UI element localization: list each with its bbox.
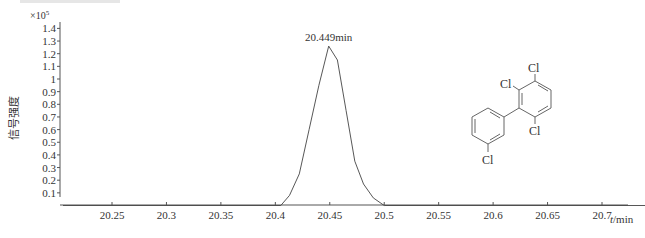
x-tick-label: 20.3 bbox=[157, 209, 177, 221]
atom-cl-3: Cl bbox=[529, 124, 541, 138]
y-tick-label: 0.3 bbox=[42, 162, 56, 174]
atom-cl-4: Cl bbox=[482, 153, 494, 167]
x-tick-label: 20.45 bbox=[317, 209, 342, 221]
upper-ring bbox=[519, 81, 551, 117]
x-tick-label: 20.5 bbox=[375, 209, 395, 221]
atom-cl-1: Cl bbox=[528, 61, 540, 75]
y-multiplier: ×105 bbox=[30, 9, 50, 21]
y-tick-label: 1.1 bbox=[42, 60, 56, 72]
x-tick-label: 20.65 bbox=[535, 209, 560, 221]
atom-cl-2: Cl bbox=[500, 77, 512, 91]
y-tick-label: 0.8 bbox=[42, 98, 56, 110]
peak-annotation: 20.449min bbox=[305, 31, 353, 43]
y-tick-label: 0.2 bbox=[42, 174, 56, 186]
y-ticks: 0.10.20.30.40.50.60.70.80.911.11.21.31.4 bbox=[42, 22, 60, 198]
y-tick-label: 1.2 bbox=[42, 48, 56, 60]
y-tick-label: 0.9 bbox=[42, 86, 56, 98]
y-tick-label: 1.4 bbox=[42, 22, 56, 34]
y-tick-label: 0.4 bbox=[42, 149, 56, 161]
y-tick-label: 0.1 bbox=[42, 187, 56, 199]
y-tick-label: 1.3 bbox=[42, 35, 56, 47]
chromatogram-trace bbox=[63, 46, 645, 205]
x-tick-label: 20.55 bbox=[426, 209, 451, 221]
molecule-structure: Cl Cl Cl Cl bbox=[472, 61, 551, 167]
y-tick-label: 0.7 bbox=[42, 111, 56, 123]
x-tick-label: 20.4 bbox=[266, 209, 286, 221]
y-tick-label: 1 bbox=[51, 73, 57, 85]
x-tick-label: 20.25 bbox=[100, 209, 125, 221]
x-tick-label: 20.35 bbox=[209, 209, 234, 221]
x-axis-label: t/min bbox=[610, 213, 634, 225]
y-axis-label: 信号强度 bbox=[7, 96, 20, 140]
x-tick-label: 20.6 bbox=[483, 209, 503, 221]
lower-ring bbox=[472, 108, 504, 144]
y-tick-label: 0.6 bbox=[42, 124, 56, 136]
y-tick-label: 0.5 bbox=[42, 136, 56, 148]
chromatogram-chart: ×105 信号强度 0.10.20.30.40.50.60.70.80.911.… bbox=[0, 0, 645, 238]
